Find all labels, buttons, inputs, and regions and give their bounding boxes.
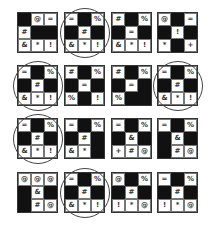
symbol-cell: # bbox=[78, 26, 91, 39]
puzzle-panel-r4-c4: =%#!*@ bbox=[157, 172, 198, 213]
symbol-cell: * bbox=[31, 39, 44, 52]
puzzle-panel-r1-c1: @=#&*! bbox=[17, 12, 58, 53]
symbol-cell: % bbox=[112, 92, 125, 105]
black-cell bbox=[125, 66, 138, 79]
black-cell bbox=[158, 145, 171, 158]
black-cell bbox=[184, 132, 197, 145]
black-cell bbox=[65, 26, 78, 39]
black-cell bbox=[78, 173, 91, 186]
symbol-cell: & bbox=[171, 132, 184, 145]
black-cell bbox=[138, 132, 151, 145]
puzzle-panel-r1-c2: =%#&*! bbox=[64, 12, 105, 53]
symbol-grid-puzzle: @=#&*!=%#&*!#%=&*!@=!*+=%#&*!#%=%!#%=%=%… bbox=[0, 0, 212, 227]
black-cell bbox=[171, 66, 184, 79]
symbol-cell: % bbox=[91, 173, 104, 186]
puzzle-panel-r4-c3: @%#!*@ bbox=[111, 172, 152, 213]
black-cell bbox=[31, 26, 44, 39]
symbol-cell: + bbox=[184, 39, 197, 52]
black-cell bbox=[158, 26, 171, 39]
symbol-cell: ! bbox=[44, 39, 57, 52]
black-cell bbox=[125, 173, 138, 186]
black-cell bbox=[78, 13, 91, 26]
black-cell bbox=[78, 119, 91, 132]
symbol-cell: # bbox=[171, 79, 184, 92]
symbol-cell: # bbox=[31, 132, 44, 145]
symbol-cell: ! bbox=[184, 92, 197, 105]
black-cell bbox=[44, 79, 57, 92]
symbol-cell: = bbox=[158, 173, 171, 186]
symbol-cell: @ bbox=[44, 173, 57, 186]
symbol-cell: @ bbox=[158, 13, 171, 26]
black-cell bbox=[184, 186, 197, 199]
symbol-cell: @ bbox=[138, 145, 151, 158]
black-cell bbox=[18, 199, 31, 212]
symbol-cell: @ bbox=[31, 13, 44, 26]
black-cell bbox=[31, 66, 44, 79]
black-cell bbox=[138, 186, 151, 199]
symbol-cell: ! bbox=[158, 199, 171, 212]
symbol-cell: # bbox=[125, 186, 138, 199]
symbol-cell: & bbox=[65, 199, 78, 212]
symbol-cell: & bbox=[31, 186, 44, 199]
black-cell bbox=[171, 119, 184, 132]
symbol-cell: = bbox=[78, 79, 91, 92]
black-cell bbox=[158, 186, 171, 199]
symbol-cell: # bbox=[31, 199, 44, 212]
black-cell bbox=[138, 79, 151, 92]
symbol-cell: = bbox=[44, 13, 57, 26]
symbol-cell: # bbox=[78, 132, 91, 145]
symbol-cell: % bbox=[44, 119, 57, 132]
black-cell bbox=[171, 173, 184, 186]
symbol-cell: & bbox=[125, 132, 138, 145]
puzzle-panel-r1-c3: #%=&*! bbox=[111, 12, 152, 53]
symbol-cell: @ bbox=[138, 199, 151, 212]
symbol-cell: @ bbox=[184, 145, 197, 158]
symbol-cell: # bbox=[18, 26, 31, 39]
black-cell bbox=[125, 119, 138, 132]
symbol-cell: % bbox=[44, 66, 57, 79]
puzzle-panel-r3-c2: =%#&* bbox=[64, 118, 105, 159]
symbol-cell: # bbox=[112, 13, 125, 26]
black-cell bbox=[184, 26, 197, 39]
symbol-cell: @ bbox=[184, 199, 197, 212]
symbol-cell: & bbox=[18, 39, 31, 52]
black-cell bbox=[112, 79, 125, 92]
puzzle-panel-r2-c4: =%#&*! bbox=[157, 65, 198, 106]
symbol-cell: ! bbox=[171, 26, 184, 39]
black-cell bbox=[91, 132, 104, 145]
symbol-cell: = bbox=[125, 79, 138, 92]
puzzle-panel-r1-c4: @=!*+ bbox=[157, 12, 198, 53]
symbol-cell: = bbox=[65, 13, 78, 26]
symbol-cell: * bbox=[171, 92, 184, 105]
black-cell bbox=[44, 132, 57, 145]
black-cell bbox=[65, 186, 78, 199]
black-cell bbox=[78, 66, 91, 79]
puzzle-panel-r2-c2: #%=%! bbox=[64, 65, 105, 106]
symbol-cell: % bbox=[184, 173, 197, 186]
symbol-cell: ! bbox=[138, 39, 151, 52]
symbol-cell: * bbox=[78, 145, 91, 158]
symbol-cell: * bbox=[171, 199, 184, 212]
black-cell bbox=[112, 186, 125, 199]
symbol-cell: % bbox=[91, 13, 104, 26]
symbol-cell: & bbox=[18, 92, 31, 105]
symbol-cell: ! bbox=[91, 92, 104, 105]
black-cell bbox=[158, 132, 171, 145]
black-cell bbox=[18, 13, 31, 26]
puzzle-panel-r3-c4: =%&#@ bbox=[157, 118, 198, 159]
symbol-cell: & bbox=[158, 92, 171, 105]
puzzle-panel-r3-c1: =%#&*! bbox=[17, 118, 58, 159]
symbol-cell: % bbox=[184, 66, 197, 79]
symbol-cell: # bbox=[65, 66, 78, 79]
symbol-cell: % bbox=[138, 119, 151, 132]
symbol-cell: ! bbox=[44, 92, 57, 105]
black-cell bbox=[65, 132, 78, 145]
symbol-cell: ! bbox=[91, 39, 104, 52]
symbol-cell: = bbox=[125, 26, 138, 39]
symbol-cell: * bbox=[125, 39, 138, 52]
black-cell bbox=[184, 79, 197, 92]
black-cell bbox=[112, 132, 125, 145]
puzzle-panel-r2-c3: #%=% bbox=[111, 65, 152, 106]
symbol-cell: * bbox=[78, 199, 91, 212]
black-cell bbox=[91, 26, 104, 39]
